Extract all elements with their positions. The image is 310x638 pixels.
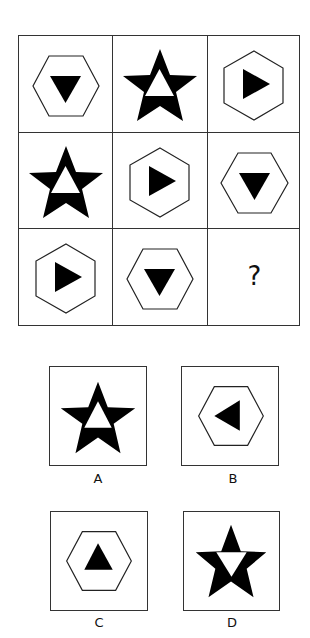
option-c-label: C [79,615,119,630]
option-b[interactable] [181,366,279,466]
grid-cell-1-1 [19,36,113,133]
hexagon-left-triangle-icon [182,367,278,465]
option-a[interactable] [49,366,147,466]
star-down-triangle-icon [184,512,279,610]
question-mark: ? [208,261,301,291]
hexagon-right-triangle-icon [113,133,207,229]
option-c[interactable] [50,511,148,611]
star-up-triangle-icon [113,36,207,133]
grid-cell-3-2 [113,229,207,325]
option-b-label: B [213,471,253,486]
option-a-label: A [78,471,118,486]
hexagon-down-triangle-icon [208,133,301,229]
grid-cell-2-3 [208,133,301,229]
grid-cell-2-1 [19,133,113,229]
hexagon-right-triangle-icon [19,229,113,325]
hexagon-down-triangle-icon [19,36,113,133]
grid-cell-1-2 [113,36,207,133]
grid-cell-1-3 [208,36,301,133]
option-d[interactable] [183,511,280,611]
grid-cell-2-2 [113,133,207,229]
option-d-label: D [212,615,252,630]
hexagon-up-triangle-icon [51,512,147,610]
puzzle-grid: ? [18,35,300,326]
star-up-triangle-icon [50,367,146,465]
star-up-triangle-icon [19,133,113,229]
hexagon-right-triangle-icon [208,36,301,133]
grid-cell-3-1 [19,229,113,325]
hexagon-down-triangle-icon [113,229,207,325]
grid-cell-3-3-missing: ? [208,229,301,325]
